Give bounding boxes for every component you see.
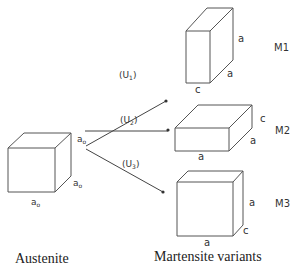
austenite-side-label: ao [73, 178, 83, 189]
u2-label: (U2) [120, 115, 137, 126]
m2-depth-label: a [250, 135, 256, 146]
arrow-u2 [85, 128, 170, 131]
m1-height-label: a [238, 33, 244, 44]
m3-name: M3 [275, 198, 290, 209]
m3-depth-label: c [243, 225, 249, 236]
martensite-m3-box [177, 171, 243, 236]
m1-depth-label: a [227, 68, 233, 79]
m3-height-label: a [249, 197, 255, 208]
martensite-m1-box [186, 8, 233, 83]
m2-width-label: a [198, 151, 204, 162]
m2-name: M2 [275, 125, 290, 136]
austenite-top-label: ao [77, 134, 87, 145]
u1-label: (U1) [119, 70, 136, 81]
martensite-m2-box [175, 105, 252, 151]
m3-width-label: a [204, 237, 210, 248]
u3-label: (U3) [122, 159, 139, 170]
m1-width-label: c [195, 84, 201, 95]
m1-name: M1 [274, 42, 289, 53]
austenite-cube [8, 133, 71, 192]
m2-height-label: c [260, 113, 266, 124]
austenite-bottom-label: ao [31, 197, 41, 208]
arrow-u3 [86, 149, 165, 194]
diagram-canvas: ao ao ao (U1) (U2) (U3) a a c M1 c a a M… [0, 0, 295, 269]
austenite-caption: Austenite [15, 251, 69, 266]
martensite-caption: Martensite variants [154, 249, 262, 264]
